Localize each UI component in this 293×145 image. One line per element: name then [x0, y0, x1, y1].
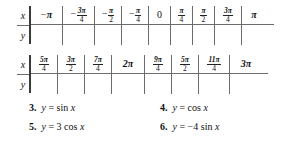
fraction: π2 — [108, 7, 114, 24]
table-cell-x: 3π — [230, 55, 262, 74]
equation-variable: x — [71, 102, 75, 113]
exercise-5-number: 5. — [29, 122, 37, 132]
table-1-x-value: 3π4 — [223, 7, 233, 24]
fraction-denominator: 4 — [79, 16, 85, 24]
table-cell-y[interactable] — [31, 25, 62, 44]
table-cell-x: π — [242, 6, 266, 25]
table-cell-x: −3π4 — [63, 6, 94, 25]
table-cell-x: π4 — [171, 6, 192, 25]
fraction: π4 — [178, 7, 184, 24]
fraction: 3π2 — [66, 56, 76, 73]
fraction-denominator: 4 — [41, 65, 47, 73]
exercise-item-4: 4. y=cos x — [160, 103, 208, 113]
table-cell-y[interactable] — [145, 74, 171, 93]
table-cell-x: 3π4 — [215, 6, 241, 25]
equation-variable: x — [80, 121, 84, 132]
exercise-item-5: 5. y=3 cos x — [29, 122, 84, 132]
equation-lhs: y — [42, 102, 46, 113]
table-1-x-value: −π — [41, 10, 53, 20]
table-2-trailing-rule — [262, 55, 268, 94]
table-cell-x: −π — [31, 6, 62, 25]
table-column: −3π4 — [63, 6, 95, 45]
table-1-trailing-rule — [266, 6, 274, 45]
table-2-x-value: 5π4 — [39, 56, 49, 73]
table-cell-y[interactable] — [172, 74, 198, 93]
table-cell-y[interactable] — [95, 25, 121, 44]
table-cell-x: 7π4 — [85, 55, 111, 74]
table-cell-y[interactable] — [230, 74, 262, 93]
table-cell-y[interactable] — [199, 74, 229, 93]
fraction: 9π4 — [153, 56, 163, 73]
table-1-x-value: −π4 — [129, 7, 141, 24]
table-2-x-value: 3π2 — [66, 56, 76, 73]
table-cell-x: 9π4 — [145, 55, 171, 74]
table-cell-y[interactable] — [149, 25, 170, 44]
table-cell-x: π2 — [193, 6, 214, 25]
exercise-4-equation: y=cos x — [173, 103, 208, 113]
table-cell-y[interactable] — [85, 74, 111, 93]
table-2-x-value: 2π — [123, 59, 133, 69]
equation-equals: = — [179, 121, 185, 132]
table-2-label-y: y — [17, 75, 29, 94]
table-cell-y[interactable] — [58, 74, 84, 93]
table-cell-y[interactable] — [171, 25, 192, 44]
fraction: π2 — [200, 7, 206, 24]
exercise-list: 3. y=sin x 4. y=cos x 5. y=3 cos x 6. y=… — [0, 103, 293, 145]
table-column: 5π4 — [31, 55, 58, 94]
fraction-denominator: 4 — [179, 16, 185, 24]
table-cell-y[interactable] — [63, 25, 94, 44]
exercise-4-number: 4. — [160, 103, 168, 113]
minus-sign: − — [41, 9, 47, 20]
equation-function: sin — [201, 121, 215, 132]
minus-sign: − — [102, 8, 108, 19]
coordinate-table-2: x y 5π43π27π42π9π45π211π43π — [17, 55, 268, 94]
whole-value: π — [251, 10, 256, 20]
exercise-5-equation: y=3 cos x — [42, 122, 85, 132]
table-column: 3π2 — [58, 55, 85, 94]
table-cell-y[interactable] — [242, 25, 266, 44]
table-column: π2 — [193, 6, 215, 45]
table-2-x-value: 7π4 — [93, 56, 103, 73]
table-cell-y[interactable] — [112, 74, 144, 93]
table-cell-x: −π4 — [122, 6, 148, 25]
whole-value: 2π — [123, 59, 133, 69]
table-cell-x: 5π2 — [172, 55, 198, 74]
fraction-denominator: 2 — [201, 16, 207, 24]
whole-value: 3π — [241, 59, 251, 69]
table-2-label-x: x — [17, 55, 29, 75]
table-cell-y[interactable] — [193, 25, 214, 44]
fraction: π4 — [135, 7, 141, 24]
minus-sign: − — [71, 8, 77, 19]
table-column: 5π2 — [172, 55, 199, 94]
exercise-3-equation: y=sin x — [42, 103, 76, 113]
fraction: 5π4 — [39, 56, 49, 73]
fraction-denominator: 4 — [211, 65, 217, 73]
table-column: 3π4 — [215, 6, 242, 45]
equation-coefficient: −4 — [188, 121, 201, 132]
table-column: −π — [31, 6, 63, 45]
table-column: 9π4 — [145, 55, 172, 94]
table-cell-x: 11π4 — [199, 55, 229, 74]
equation-function: sin — [57, 102, 71, 113]
exercise-item-6: 6. y=−4 sin x — [160, 122, 219, 132]
table-1-x-value: −3π4 — [71, 7, 87, 24]
whole-value: 0 — [157, 10, 162, 20]
table-2-x-value: 3π — [241, 59, 251, 69]
fraction: 3π4 — [223, 7, 233, 24]
table-column: 7π4 — [85, 55, 112, 94]
fraction-denominator: 4 — [155, 65, 161, 73]
equation-variable: x — [203, 102, 207, 113]
fraction-denominator: 2 — [68, 65, 74, 73]
table-2-row-labels: x y — [17, 55, 29, 94]
table-cell-y[interactable] — [215, 25, 241, 44]
equation-function: cos — [188, 102, 204, 113]
whole-value: π — [47, 10, 52, 20]
fraction-denominator: 4 — [225, 16, 231, 24]
table-1-x-value: 0 — [157, 10, 162, 20]
table-cell-y[interactable] — [122, 25, 148, 44]
exercise-6-number: 6. — [160, 122, 168, 132]
table-cell-x: 0 — [149, 6, 170, 25]
fraction-denominator: 2 — [182, 65, 188, 73]
table-cell-y[interactable] — [31, 74, 57, 93]
fraction: 7π4 — [93, 56, 103, 73]
